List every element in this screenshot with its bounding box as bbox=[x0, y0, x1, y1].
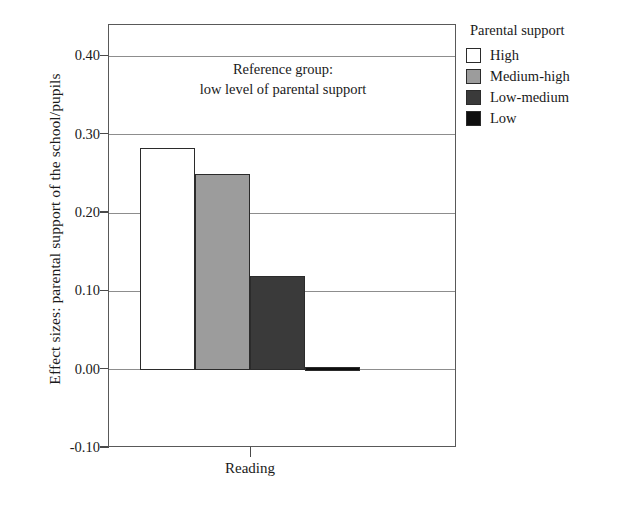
y-axis-tick-label: 0.00 bbox=[48, 360, 100, 377]
legend-item-label: Low-medium bbox=[490, 90, 569, 105]
legend-item-label: Low bbox=[490, 111, 517, 126]
y-axis-tick-label: 0.40 bbox=[48, 47, 100, 64]
bar-low bbox=[305, 367, 360, 371]
legend-title: Parental support bbox=[470, 22, 616, 39]
y-axis-tick-label: -0.10 bbox=[48, 439, 100, 456]
legend-item-label: High bbox=[490, 48, 519, 63]
x-axis-tick-mark bbox=[250, 447, 251, 457]
legend-item[interactable]: Medium-high bbox=[466, 69, 616, 84]
y-axis-tick-label: 0.10 bbox=[48, 282, 100, 299]
legend-swatch-icon bbox=[466, 90, 481, 105]
legend-item-label: Medium-high bbox=[490, 69, 570, 84]
bar-low-medium bbox=[250, 276, 305, 370]
x-axis-category-label: Reading bbox=[190, 460, 310, 477]
annotation-line-2: low level of parental support bbox=[128, 80, 438, 100]
y-axis-tick-label: 0.30 bbox=[48, 125, 100, 142]
y-axis-tick-label: 0.20 bbox=[48, 204, 100, 221]
reference-group-annotation: Reference group: low level of parental s… bbox=[128, 60, 438, 99]
legend-swatch-icon bbox=[466, 69, 481, 84]
legend-swatch-icon bbox=[466, 111, 481, 126]
legend-item[interactable]: Low bbox=[466, 111, 616, 126]
legend-swatch-icon bbox=[466, 48, 481, 63]
legend-item[interactable]: Low-medium bbox=[466, 90, 616, 105]
legend: Parental support HighMedium-highLow-medi… bbox=[466, 22, 616, 132]
legend-items: HighMedium-highLow-mediumLow bbox=[466, 48, 616, 126]
bar-medium-high bbox=[195, 174, 250, 370]
legend-item[interactable]: High bbox=[466, 48, 616, 63]
chart-figure: Effect sizes: parental support of the sc… bbox=[0, 0, 622, 511]
annotation-line-1: Reference group: bbox=[128, 60, 438, 80]
gridline bbox=[109, 134, 455, 135]
gridline bbox=[109, 56, 455, 57]
bar-high bbox=[140, 148, 195, 370]
